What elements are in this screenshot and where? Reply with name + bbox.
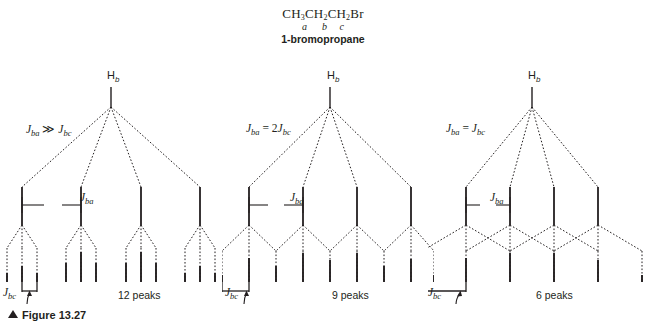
tree-3-proton-subscript: b	[536, 75, 540, 84]
tree-3-coupling-condition: Jba = Jbc	[446, 122, 485, 137]
tree-2-proton-label: Hb	[327, 69, 339, 84]
caption-text: Figure 13.27	[22, 309, 86, 321]
tree-2-coupling-condition: Jba = 2Jbc	[246, 122, 291, 137]
tree-3-peak-count: 6 peaks	[536, 289, 573, 301]
formula-text: CH3CH2CH2Br	[282, 6, 363, 21]
tree-1-proton-label: Hb	[107, 69, 119, 84]
tree-2-jbc-label: Jbc	[225, 286, 238, 301]
tree-3-graphic	[428, 70, 646, 310]
splitting-tree-2: Hb Jba = 2Jbc Jba Jbc 9 peaks	[222, 70, 434, 310]
tree-2-jba-label: Jba	[290, 191, 304, 206]
tree-3-jba-label: Jba	[490, 191, 504, 206]
tree-3-proton-label: Hb	[528, 69, 540, 84]
tree-1-coupling-condition: Jba ≫ Jbc	[26, 122, 72, 138]
splitting-tree-1: Hb Jba ≫ Jbc Jba Jbc 12 peaks	[0, 70, 222, 310]
tree-1-jba-label: Jba	[80, 191, 94, 206]
tree-2-peak-count: 9 peaks	[332, 289, 369, 301]
tree-1-proton-subscript: b	[115, 75, 119, 84]
tree-1-jbc-label: Jbc	[3, 286, 16, 301]
tree-2-graphic	[222, 70, 434, 310]
figure-caption: Figure 13.27	[8, 309, 86, 321]
molecular-formula: CH3CH2CH2Br	[0, 6, 646, 22]
locant-labels: a b c	[0, 21, 646, 32]
tree-3-jbc-label: Jbc	[428, 286, 441, 301]
tree-1-graphic	[0, 70, 222, 310]
tree-2-proton-subscript: b	[335, 75, 339, 84]
tree-1-peak-count: 12 peaks	[118, 289, 161, 301]
splitting-tree-3: Hb Jba = Jbc Jba Jbc 6 peaks	[428, 70, 646, 310]
caption-triangle-icon	[8, 310, 18, 318]
compound-name: 1-bromopropane	[0, 33, 646, 45]
